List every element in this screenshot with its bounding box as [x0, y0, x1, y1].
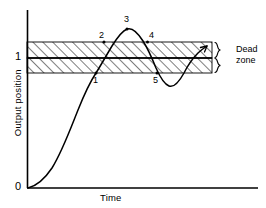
x-axis-label: Time [100, 193, 122, 203]
brace-lower [215, 59, 221, 73]
point-marker-2 [103, 41, 106, 44]
dead-zone-brace [215, 43, 221, 73]
point-label-3: 3 [124, 14, 129, 24]
point-label-2: 2 [99, 30, 104, 40]
point-label-5: 5 [153, 75, 158, 85]
dead-zone-band [27, 42, 212, 73]
y-tick-label-1: 1 [15, 51, 21, 62]
dead-zone-label-line2: zone [236, 55, 258, 66]
dead-zone-label-line1: Dead [236, 44, 258, 55]
y-tick-label-0: 0 [15, 181, 21, 192]
point-marker-4 [146, 41, 149, 44]
point-marker-3 [126, 28, 129, 31]
point-label-1: 1 [93, 75, 98, 85]
dead-zone-lower-band [27, 58, 212, 73]
point-label-4: 4 [149, 30, 154, 40]
dead-zone-response-chart: Output position Time 1 0 Dead zone 1 2 3… [0, 0, 266, 208]
brace-upper [215, 43, 221, 58]
axes [27, 10, 258, 188]
chart-canvas [0, 0, 266, 208]
y-axis-label: Output position [13, 58, 23, 148]
dead-zone-upper-band [27, 42, 212, 58]
dead-zone-label: Dead zone [236, 44, 258, 66]
